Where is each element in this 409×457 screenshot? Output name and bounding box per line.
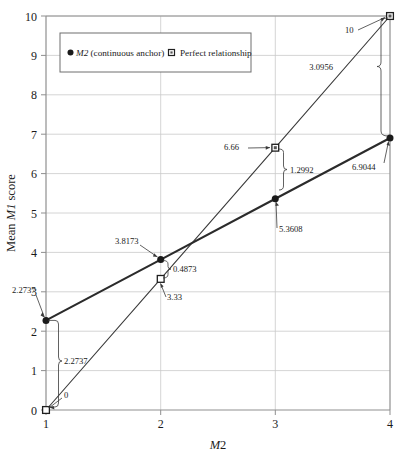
annotation-label: 3.33 [167,292,182,302]
data-point-marker [387,135,394,142]
annotation-label: 6.9044 [352,162,376,172]
annotation-label: 2.2737 [12,285,36,295]
chart-svg: 10 9 8 7 6 5 4 3 2 1 0 1 2 3 4 M2 Mean M… [0,0,409,457]
annotation-label: 3.8173 [115,236,139,246]
legend-marker-filled-circle [68,50,74,56]
annotation-label: 10 [345,25,354,35]
legend-label-m2-anchor: M2 (continuous anchor) [75,48,164,58]
annotation-label: 3.0956 [309,62,333,72]
y-tick-label: 4 [31,246,37,260]
y-tick-label: 1 [31,364,37,378]
x-tick-label: 4 [387,417,393,431]
y-tick-label: 6 [31,167,37,181]
legend-label-perfect-relationship: Perfect relationship [180,48,252,58]
chart-figure: 10 9 8 7 6 5 4 3 2 1 0 1 2 3 4 M2 Mean M… [0,0,409,457]
data-point-marker-core [389,15,392,18]
data-point-marker-core [274,146,277,149]
annotation-label: 6.66 [224,142,240,152]
x-axis-title: M2 [209,438,227,452]
x-tick-label: 3 [272,417,278,431]
y-tick-label: 8 [31,88,37,102]
y-tick-label: 10 [25,10,37,24]
chart-legend: M2 (continuous anchor) Perfect relations… [60,33,252,72]
x-tick-label: 1 [43,417,49,431]
data-point-marker [272,195,279,202]
y-axis-title: Mean M1 score [4,174,18,252]
y-tick-label: 2 [31,325,37,339]
y-tick-label: 7 [31,128,37,142]
legend-marker-open-square-core [170,51,172,53]
data-point-marker [43,407,50,414]
annotation-label: 2.2737 [64,356,88,366]
annotation-label: 1.2992 [290,165,314,175]
annotation-label: 0.4873 [173,264,197,274]
annotation-label: 5.3608 [279,224,303,234]
data-point-marker [157,276,164,283]
y-tick-label: 0 [31,404,37,418]
y-tick-label: 9 [31,49,37,63]
x-tick-label: 2 [158,417,164,431]
data-point-marker [157,256,164,263]
annotation-label: 0 [64,390,68,400]
y-tick-label: 5 [31,207,37,221]
